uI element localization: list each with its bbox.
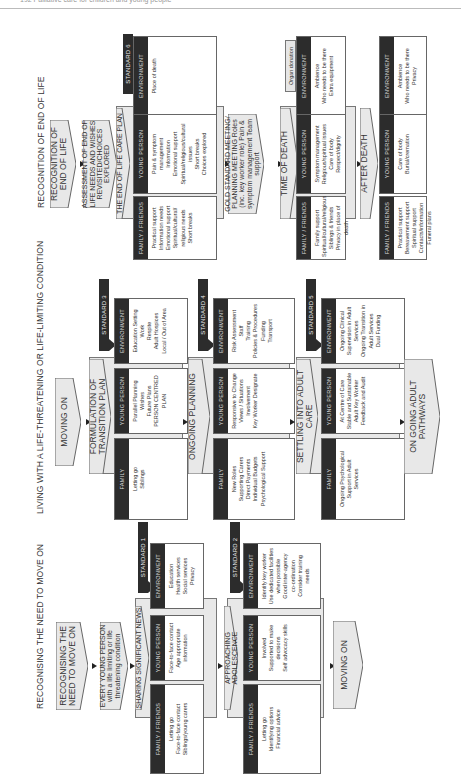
young-person-box-7: YOUNG PERSONSymptom managementReligious/… [296, 114, 346, 194]
young-person-box-6-heading: YOUNG PERSON [134, 115, 148, 193]
environment-box-2-item: Good inter-agency [282, 546, 289, 606]
young-person-box-5-item: Feedback and Audit [360, 371, 367, 431]
environment-box-3-item: Local / Out of Area [161, 301, 168, 361]
young-person-box-8-item: Care of body [397, 117, 404, 191]
environment-box-3-heading: ENVIRONMENT [115, 299, 129, 363]
stage-label-0-label: FORMULATION OF TRANSITION PLAN [89, 359, 103, 474]
family-box-2-items: Letting goIdentifying optionsFinancial a… [258, 685, 285, 773]
young-person-box-4-item: Key Worker Designate [252, 371, 259, 431]
family-box-6-item: Information needs [158, 199, 165, 257]
environment-box-8: ENVIRONMENTAmbienceWho needs to be there… [379, 36, 427, 116]
environment-box-2-heading: ENVIRONMENT [244, 544, 258, 608]
family-box-2-item: Letting go [261, 687, 268, 771]
young-person-box-5: YOUNG PERSONAt Centre of CareStable and … [321, 368, 405, 434]
young-person-box-8-heading: YOUNG PERSON [380, 115, 394, 193]
chevron-every-young-person-label: EVERY YOUNG PERSON with a life limiting … [100, 622, 120, 710]
standard-badge-4: STANDARD 4 [198, 279, 208, 351]
chevron-moving-on-intro-label: MOVING ON [55, 378, 73, 466]
young-person-box-5-item: Adult Key Worker [353, 371, 360, 431]
young-person-box-6: YOUNG PERSONPain & symptommanagementInfo… [133, 114, 217, 194]
stage-label-approaching-adolescence-label: APPROACHING ADOLESCENCE [224, 606, 238, 710]
young-person-box-5-item: At Centre of Care [339, 371, 346, 431]
environment-box-5-item: Dual Funding [375, 301, 382, 361]
environment-box-2-item: Identify key worker [261, 546, 268, 606]
family-box-6-item: Emotional support [165, 199, 172, 257]
environment-box-4-item: Staff [238, 301, 245, 361]
family-box-4-item: Direct Payments [245, 441, 252, 517]
environment-box-2-item: co-ordination [290, 546, 297, 606]
young-person-box-3-heading: YOUNG PERSON [115, 369, 129, 433]
young-person-box-2: YOUNG PERSONInvolvedSupported to makedec… [243, 615, 321, 681]
young-person-box-2-item: Supported to make [268, 618, 275, 678]
environment-box-3-items: Education SettingWorkRespiteAdult Hospic… [129, 299, 171, 363]
family-box-2-item: Financial advice [275, 687, 282, 771]
family-box-3-heading: FAMILY [115, 439, 129, 519]
young-person-box-3-item: PLAN [161, 371, 168, 431]
environment-box-4: ENVIRONMENTRisk AssessmentStaffTrainingP… [213, 298, 295, 364]
chevron-gold-standard-meeting-label: GOLD STANDARD MEETING/ PLANNING MEETING … [228, 114, 256, 214]
standard-badge-5: STANDARD 5 [306, 279, 316, 351]
family-box-1-item: Letting go [168, 687, 175, 771]
environment-box-5: ENVIRONMENTOngoing ClinicalSupervision i… [321, 298, 405, 364]
young-person-box-4-items: Responsive to ChangeViews / SituationsIn… [228, 369, 263, 433]
young-person-box-3: YOUNG PERSONParallel PlanningWishesFutur… [114, 368, 188, 434]
young-person-box-3-item: Wishes [139, 371, 146, 431]
family-box-8: FAMILY / FRIENDSPractical supportBereave… [379, 196, 427, 260]
young-person-box-2-item: Self advocacy skills [282, 618, 289, 678]
organ-donation-tag: Organ donation [285, 40, 296, 92]
young-person-box-5-item: Stable and Sustainable [346, 371, 353, 431]
young-person-box-4: YOUNG PERSONResponsive to ChangeViews / … [213, 368, 295, 434]
environment-box-7-heading: ENVIRONMENT [297, 37, 311, 115]
young-person-box-6-items: Pain & symptommanagementInformationEmoti… [148, 115, 211, 193]
environment-box-4-items: Risk AssessmentStaffTrainingPolicies & P… [228, 299, 277, 363]
environment-box-2-item: Use dedicated facilities [268, 546, 275, 606]
young-person-box-3-item: Parallel Planning [132, 371, 139, 431]
family-box-8-heading: FAMILY / FRIENDS [380, 197, 394, 259]
young-person-box-5-heading: YOUNG PERSON [322, 369, 336, 433]
environment-box-1-item: Health services [175, 546, 182, 606]
chevron-every-young-person: EVERY YOUNG PERSON with a life limiting … [100, 622, 128, 710]
standard-badge-6: STANDARD 6 [123, 34, 133, 94]
family-box-5-item: Support in Adult [346, 441, 353, 517]
young-person-box-1-item: Face-to-face contact [168, 618, 175, 678]
chevron-assessment-end-of-life: ASSESSMENT OF END OF LIFE NEEDS AND WISH… [83, 120, 117, 208]
environment-box-3-item: Respite [146, 301, 153, 361]
family-box-8-item: Bereavement support [404, 199, 411, 257]
young-person-box-6-item: Emotional support [172, 117, 179, 191]
environment-box-1: ENVIRONMENTEducationHealth servicesSocia… [150, 543, 204, 609]
family-box-7-item: Family support [314, 199, 321, 257]
family-box-5: FAMILYOngoing PsychologicalSupport in Ad… [321, 438, 405, 520]
family-box-8-item: Funeral plans [426, 199, 433, 257]
environment-box-5-heading: ENVIRONMENT [322, 299, 336, 363]
family-box-8-item: Practical support [397, 199, 404, 257]
chevron-ongoing-adult-pathways: ON GOING ADULT PATHWAYS [404, 359, 440, 474]
family-box-5-items: Ongoing PsychologicalSupport in AdultSer… [336, 439, 363, 519]
environment-box-6-heading: ENVIRONMENT [134, 37, 148, 115]
young-person-box-6-item: Choices explored [201, 117, 208, 191]
family-box-7-heading: FAMILY / FRIENDS [297, 197, 311, 259]
stage-label-sharing-news: SHARING SIGNIFICANT NEWS [135, 606, 149, 710]
young-person-box-8-items: Care of bodyBurial/cremation [394, 115, 414, 193]
stage-label-after-death-label: AFTER DEATH [360, 108, 374, 219]
family-box-1-items: Letting goFace-to-face contactSiblings/y… [165, 685, 192, 773]
section-title: LIVING WITH A LIFE-THREATENING OR LIFE-L… [35, 241, 45, 514]
chevron-ongoing-adult-pathways-label: ON GOING ADULT PATHWAYS [404, 359, 432, 474]
stage-label-end-of-life-care-plan-label: THE END OF LIFE CARE PLAN [116, 108, 130, 219]
chevron-moving-on-intro: MOVING ON [55, 378, 81, 466]
stage-label-2: SETTLING INTO ADULT CARE [296, 359, 318, 474]
young-person-box-3-items: Parallel PlanningWishesFuture PlansPERSO… [129, 369, 171, 433]
stage-label-0: FORMULATION OF TRANSITION PLAN [89, 359, 111, 474]
standard-badge-2: STANDARD 2 [230, 522, 240, 593]
environment-box-2: ENVIRONMENTIdentify key workerUse dedica… [243, 543, 321, 609]
environment-box-5-item: Services [353, 301, 360, 361]
environment-box-4-item: Risk Assessment [231, 301, 238, 361]
young-person-box-1: YOUNG PERSONFace-to-face contactAge appr… [150, 615, 204, 681]
family-box-2: FAMILY / FRIENDSLetting goIdentifying op… [243, 684, 321, 774]
environment-box-4-item: Policies & Procedures [252, 301, 259, 361]
environment-box-8-item: Ambience [397, 39, 404, 113]
family-box-6-item: religious needs [180, 199, 187, 257]
young-person-box-4-item: Views / Situations [238, 371, 245, 431]
young-person-box-3-item: PERSON CENTRED [153, 371, 160, 431]
young-person-box-1-heading: YOUNG PERSON [151, 616, 165, 680]
young-person-box-7-items: Symptom managementReligious/spiritual is… [311, 115, 346, 193]
